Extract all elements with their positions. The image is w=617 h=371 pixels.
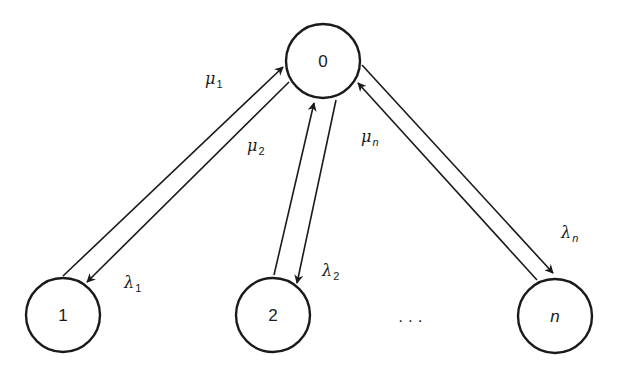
edge-0-to-n <box>362 65 553 273</box>
edge-n-to-0 <box>358 83 537 280</box>
edge-label-n-to-0: μn <box>361 127 379 148</box>
state-node-1: 1 <box>26 278 100 352</box>
edge-label-0-to-n: λn <box>560 223 578 244</box>
edges-group: μ1λ1μ2λ2λnμn <box>63 65 578 294</box>
state-node-0: 0 <box>286 24 360 98</box>
state-node-2: 2 <box>236 278 310 352</box>
edge-2-to-0 <box>274 103 314 275</box>
state-label: 1 <box>58 306 67 325</box>
edge-1-to-0 <box>63 67 283 276</box>
edge-label-1-to-0: μ1 <box>205 69 223 90</box>
state-label: 2 <box>268 306 277 325</box>
birth-death-diagram: μ1λ1μ2λ2λnμn 012n · · · <box>0 0 617 371</box>
edge-label-2-to-0: μ2 <box>247 136 265 157</box>
nodes-group: 012n <box>26 24 592 353</box>
state-label: 0 <box>318 52 327 71</box>
edge-label-0-to-2: λ2 <box>321 261 339 282</box>
ellipsis: · · · <box>398 312 423 329</box>
state-label: n <box>550 307 559 326</box>
edge-label-0-to-1: λ1 <box>123 273 141 294</box>
edge-0-to-1 <box>87 82 289 282</box>
state-node-n: n <box>518 279 592 353</box>
edge-0-to-2 <box>297 100 336 283</box>
